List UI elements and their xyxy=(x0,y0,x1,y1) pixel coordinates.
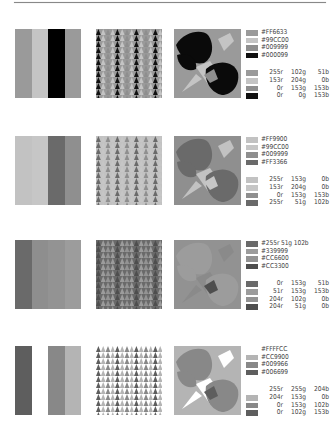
color-swatch xyxy=(246,297,258,303)
stripe-4 xyxy=(65,136,82,205)
color-swatch xyxy=(246,38,258,44)
color-swatch xyxy=(246,264,258,270)
rgb-legend-item: 255r51g102b xyxy=(246,199,332,207)
stripe-3 xyxy=(48,29,65,98)
triangle-pattern xyxy=(96,136,162,205)
blue-value: 102b xyxy=(306,199,329,207)
green-value: 102g xyxy=(283,409,306,417)
red-value: 255r xyxy=(261,199,283,207)
rgb-legend-item: 255r255g204b xyxy=(246,386,332,394)
hex-legend-item: #009999 xyxy=(246,44,332,52)
stripe-4 xyxy=(65,346,82,415)
color-legend: #FF9900#99CC00#009999#FF3366255r153g0b15… xyxy=(246,136,332,207)
color-swatch xyxy=(246,249,258,255)
color-swatch xyxy=(246,137,258,143)
hex-legend-item: #99CC00 xyxy=(246,37,332,45)
color-swatch xyxy=(246,387,258,393)
stripe-4 xyxy=(65,29,82,98)
bird-motif-illustration xyxy=(174,346,241,415)
hex-legend-item: #006699 xyxy=(246,369,332,377)
color-swatch xyxy=(246,177,258,183)
hex-legend-item: #FF6633 xyxy=(246,29,332,37)
hex-legend-item: #009999 xyxy=(246,151,332,159)
color-stripes xyxy=(15,136,81,205)
color-swatch xyxy=(246,152,258,158)
color-swatch xyxy=(246,304,258,310)
stripe-4 xyxy=(65,240,82,309)
stripe-3 xyxy=(48,240,65,309)
palette-row-4: #FFFFCC#CC9900#009966#006699255r255g204b… xyxy=(0,346,333,418)
color-legend: #FF6633#99CC00#009999#000099255r102g51b1… xyxy=(246,29,332,100)
color-swatch xyxy=(246,355,258,361)
color-swatch xyxy=(246,78,258,84)
color-swatch xyxy=(246,241,258,247)
hex-legend-item: #000099 xyxy=(246,52,332,60)
hex-legend-item: #FFFFCC xyxy=(246,346,332,354)
color-swatch xyxy=(246,70,258,76)
stripe-2 xyxy=(32,240,49,309)
color-swatch xyxy=(246,281,258,287)
blue-value: 0b xyxy=(306,303,329,311)
color-swatch xyxy=(246,145,258,151)
hex-legend-item: #CC9900 xyxy=(246,354,332,362)
blue-value: 153b xyxy=(306,92,329,100)
top-rule xyxy=(14,2,326,3)
bird-motif-illustration xyxy=(174,29,241,98)
color-swatch xyxy=(246,185,258,191)
hex-legend-item: #255r 51g 102b xyxy=(246,240,332,248)
hex-legend-item: #339999 xyxy=(246,248,332,256)
color-swatch xyxy=(246,410,258,416)
blue-value: 153b xyxy=(306,409,329,417)
rgb-legend-item: 255r153g0b xyxy=(246,176,332,184)
hex-legend-item: #99CC00 xyxy=(246,144,332,152)
color-swatch xyxy=(246,53,258,59)
color-legend: #255r 51g 102b#339999#CC6600#CC33000r153… xyxy=(246,240,332,311)
rgb-legend-item: 204r102g0b xyxy=(246,296,332,304)
color-swatch xyxy=(246,45,258,51)
red-value: 0r xyxy=(261,409,283,417)
stripe-3 xyxy=(48,346,65,415)
hex-legend-item: #009966 xyxy=(246,361,332,369)
stripe-2 xyxy=(32,346,49,415)
triangle-pattern xyxy=(96,29,162,98)
red-value: 204r xyxy=(261,303,283,311)
stripe-3 xyxy=(48,136,65,205)
color-swatch xyxy=(246,256,258,262)
bird-motif-illustration xyxy=(174,136,241,205)
stripe-2 xyxy=(32,29,49,98)
color-legend: #FFFFCC#CC9900#009966#006699255r255g204b… xyxy=(246,346,332,417)
hex-label: #000099 xyxy=(261,52,288,60)
rgb-legend-item: 255r102g51b xyxy=(246,69,332,77)
color-swatch xyxy=(246,362,258,368)
hex-label: #FF3366 xyxy=(261,159,287,167)
color-swatch xyxy=(246,30,258,36)
hex-label: #006699 xyxy=(261,369,288,377)
stripe-1 xyxy=(15,240,32,309)
color-swatch xyxy=(246,193,258,199)
triangle-pattern xyxy=(96,346,162,415)
stripe-1 xyxy=(15,29,32,98)
stripe-2 xyxy=(32,136,49,205)
color-swatch xyxy=(246,403,258,409)
palette-row-1: #FF6633#99CC00#009999#000099255r102g51b1… xyxy=(0,29,333,101)
green-value: 51g xyxy=(283,199,306,207)
stripe-1 xyxy=(15,136,32,205)
rgb-legend-item: 0r0g153b xyxy=(246,92,332,100)
color-swatch xyxy=(246,347,258,353)
hex-legend-item: #FF9900 xyxy=(246,136,332,144)
green-value: 51g xyxy=(283,303,306,311)
bird-motif-illustration xyxy=(174,240,241,309)
stripe-1 xyxy=(15,346,32,415)
rgb-legend-item: 0r102g153b xyxy=(246,409,332,417)
color-swatch xyxy=(246,86,258,92)
color-stripes xyxy=(15,240,81,309)
color-stripes xyxy=(15,29,81,98)
hex-label: #CC3300 xyxy=(261,263,289,271)
green-value: 0g xyxy=(283,92,306,100)
palette-row-3: #255r 51g 102b#339999#CC6600#CC33000r153… xyxy=(0,240,333,312)
color-swatch xyxy=(246,289,258,295)
red-value: 0r xyxy=(261,92,283,100)
color-stripes xyxy=(15,346,81,415)
color-swatch xyxy=(246,200,258,206)
palette-row-2: #FF9900#99CC00#009999#FF3366255r153g0b15… xyxy=(0,136,333,208)
